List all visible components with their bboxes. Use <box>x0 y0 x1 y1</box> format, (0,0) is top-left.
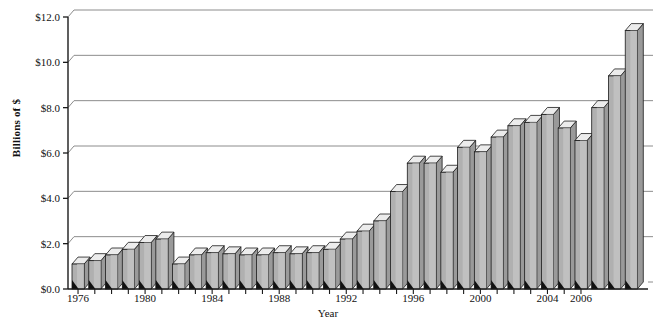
bar-2005 <box>558 121 576 289</box>
bar-1999 <box>458 140 476 289</box>
bar-front-highlight <box>630 31 637 289</box>
bar-front-highlight <box>329 249 336 289</box>
bar-1979 <box>122 242 140 289</box>
bar-2006 <box>575 134 593 289</box>
bar-1995 <box>391 185 409 289</box>
bar-2000 <box>474 145 492 289</box>
bar-front-highlight <box>178 264 185 289</box>
bar-front-highlight <box>278 253 285 289</box>
bar-undefined <box>625 24 643 289</box>
bar-1994 <box>374 214 392 289</box>
bar-front-highlight <box>194 255 201 289</box>
bar-1990 <box>307 246 325 289</box>
bar-1988 <box>273 246 291 289</box>
bar-2002 <box>508 119 526 289</box>
bar-front-highlight <box>429 163 436 289</box>
bar-1998 <box>441 165 459 289</box>
bar-front-highlight <box>597 108 604 289</box>
bar-front-highlight <box>77 264 84 289</box>
bar-front-highlight <box>379 221 386 289</box>
bar-front-highlight <box>446 172 453 289</box>
bar-2003 <box>525 115 543 289</box>
bar-1977 <box>89 254 107 289</box>
bar-front-highlight <box>546 114 553 289</box>
bar-front-highlight <box>530 122 537 289</box>
bar-front-highlight <box>211 253 218 289</box>
bar-1986 <box>240 248 258 289</box>
bar-2004 <box>541 107 559 289</box>
bar-front-highlight <box>563 128 570 289</box>
bar-1991 <box>323 242 341 289</box>
bar-front-highlight <box>295 254 302 289</box>
gridline <box>68 101 648 108</box>
bar-front-highlight <box>161 239 168 289</box>
bar-1980 <box>139 236 157 289</box>
bar-front-highlight <box>127 249 134 289</box>
bar-front-highlight <box>513 126 520 289</box>
bar-undefined <box>592 101 610 289</box>
bar-undefined <box>608 69 626 289</box>
bar-front-highlight <box>396 192 403 289</box>
gridline <box>68 10 648 17</box>
bar-1978 <box>106 248 124 289</box>
bar-1992 <box>340 232 358 289</box>
bar-front-highlight <box>362 231 369 289</box>
bar-1993 <box>357 224 375 289</box>
bar-front-highlight <box>580 141 587 289</box>
gridline <box>68 55 648 62</box>
bar-front-highlight <box>245 255 252 289</box>
bar-1982 <box>173 257 191 289</box>
bar-front-highlight <box>261 255 268 289</box>
bar-1981 <box>156 232 174 289</box>
bar-front-highlight <box>412 163 419 289</box>
bar-1976 <box>72 257 90 289</box>
bar-front-highlight <box>144 243 151 289</box>
bar-chart: Billions of $ Year $0.0$2.0$4.0$6.0$8.0$… <box>0 0 656 327</box>
bar-1987 <box>256 248 274 289</box>
bar-2001 <box>491 130 509 289</box>
bar-1985 <box>223 247 241 289</box>
plot-area <box>0 0 656 327</box>
bar-side-face <box>637 24 643 289</box>
bar-front-highlight <box>614 76 621 289</box>
bar-front-highlight <box>111 255 118 289</box>
bar-front-highlight <box>228 254 235 289</box>
bar-front-highlight <box>312 253 319 289</box>
bar-1997 <box>424 156 442 289</box>
bar-front-highlight <box>345 239 352 289</box>
bar-front-highlight <box>463 147 470 289</box>
bar-front-highlight <box>94 261 101 289</box>
bar-1984 <box>206 246 224 289</box>
bar-front-highlight <box>496 137 503 289</box>
bar-1989 <box>290 247 308 289</box>
bar-front-highlight <box>479 152 486 289</box>
bar-1996 <box>407 156 425 289</box>
bar-1983 <box>189 248 207 289</box>
